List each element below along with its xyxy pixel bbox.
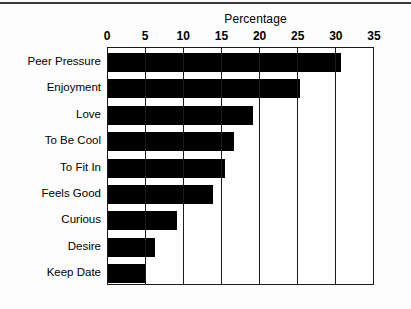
bar bbox=[108, 211, 177, 230]
x-tick-label: 15 bbox=[201, 29, 241, 44]
y-axis-category-labels: Peer PressureEnjoymentLoveTo Be CoolTo F… bbox=[0, 47, 104, 285]
gridline bbox=[259, 48, 260, 284]
y-category-label: To Be Cool bbox=[0, 131, 101, 150]
bar bbox=[108, 264, 146, 283]
x-tick-label: 25 bbox=[278, 29, 318, 44]
gridline bbox=[335, 48, 336, 284]
bar bbox=[108, 53, 341, 72]
y-category-label: Feels Good bbox=[0, 184, 101, 203]
bar bbox=[108, 159, 225, 178]
bar bbox=[108, 79, 300, 98]
gridline bbox=[297, 48, 298, 284]
chart-title: Percentage bbox=[198, 12, 313, 26]
x-tick-label: 0 bbox=[87, 29, 127, 44]
y-category-label: To Fit In bbox=[0, 158, 101, 177]
plot-area bbox=[107, 47, 374, 285]
bar-chart-figure: Percentage 05101520253035 Peer PressureE… bbox=[0, 0, 411, 309]
gridline bbox=[221, 48, 222, 284]
bar bbox=[108, 106, 253, 125]
gridline bbox=[145, 48, 146, 284]
x-tick-label: 5 bbox=[125, 29, 165, 44]
y-category-label: Love bbox=[0, 105, 101, 124]
x-axis-tick-labels: 05101520253035 bbox=[0, 29, 411, 45]
gridline bbox=[183, 48, 184, 284]
y-category-label: Peer Pressure bbox=[0, 52, 101, 71]
bar bbox=[108, 185, 213, 204]
bars-layer bbox=[108, 48, 373, 284]
bar bbox=[108, 238, 155, 257]
top-divider-rule bbox=[0, 2, 411, 4]
y-category-label: Desire bbox=[0, 237, 101, 256]
x-tick-label: 30 bbox=[316, 29, 356, 44]
x-tick-label: 20 bbox=[240, 29, 280, 44]
y-category-label: Enjoyment bbox=[0, 78, 101, 97]
x-tick-label: 10 bbox=[163, 29, 203, 44]
bar bbox=[108, 132, 234, 151]
y-category-label: Keep Date bbox=[0, 263, 101, 282]
x-tick-label: 35 bbox=[354, 29, 394, 44]
y-category-label: Curious bbox=[0, 210, 101, 229]
